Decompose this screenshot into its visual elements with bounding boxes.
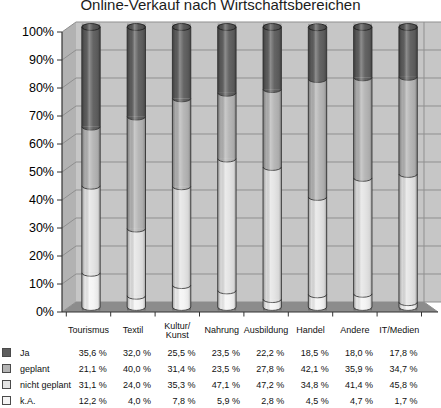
value-cell: 23,5 % xyxy=(200,346,240,361)
value-cell: 21,1 % xyxy=(66,362,106,377)
value-cell: 41,4 % xyxy=(333,378,373,393)
data-table: TourismusTextilKultur/ KunstNahrungAusbi… xyxy=(0,0,441,408)
value-cell: 24,0 % xyxy=(111,378,151,393)
value-cell: 5,9 % xyxy=(200,394,240,408)
value-cell: 35,6 % xyxy=(66,346,106,361)
category-label: Tourismus xyxy=(66,321,110,341)
value-cell: 34,7 % xyxy=(377,362,417,377)
value-cell: 35,3 % xyxy=(155,378,195,393)
value-cell: 45,8 % xyxy=(377,378,417,393)
value-cell: 42,1 % xyxy=(288,362,328,377)
value-cell: 34,8 % xyxy=(288,378,328,393)
category-label: Kultur/ Kunst xyxy=(155,321,199,341)
category-label: Ausbildung xyxy=(244,321,288,341)
value-cell: 18,5 % xyxy=(288,346,328,361)
value-cell: 25,5 % xyxy=(155,346,195,361)
value-cell: 32,0 % xyxy=(111,346,151,361)
legend-swatch-geplant xyxy=(2,364,11,373)
value-cell: 4,0 % xyxy=(111,394,151,408)
value-cell: 7,8 % xyxy=(155,394,195,408)
category-label: Handel xyxy=(288,321,332,341)
legend-swatch-nicht-geplant xyxy=(2,380,11,389)
category-label: Andere xyxy=(333,321,377,341)
value-cell: 23,5 % xyxy=(200,362,240,377)
value-cell: 2,8 % xyxy=(244,394,284,408)
value-cell: 40,0 % xyxy=(111,362,151,377)
chart-figure: Online-Verkauf nach Wirtschaftsbereichen… xyxy=(0,0,441,408)
value-cell: 4,7 % xyxy=(333,394,373,408)
value-cell: 47,2 % xyxy=(244,378,284,393)
value-cell: 31,1 % xyxy=(66,378,106,393)
legend-swatch-k-a- xyxy=(2,396,11,405)
value-cell: 47,1 % xyxy=(200,378,240,393)
value-cell: 12,2 % xyxy=(66,394,106,408)
value-cell: 22,2 % xyxy=(244,346,284,361)
value-cell: 17,8 % xyxy=(377,346,417,361)
category-label: IT/Medien xyxy=(377,321,421,341)
value-cell: 35,9 % xyxy=(333,362,373,377)
value-cell: 27,8 % xyxy=(244,362,284,377)
category-label: Textil xyxy=(111,321,155,341)
legend-swatch-ja xyxy=(2,348,11,357)
value-cell: 1,7 % xyxy=(377,394,417,408)
value-cell: 4,5 % xyxy=(288,394,328,408)
value-cell: 31,4 % xyxy=(155,362,195,377)
value-cell: 18,0 % xyxy=(333,346,373,361)
category-label: Nahrung xyxy=(200,321,244,341)
